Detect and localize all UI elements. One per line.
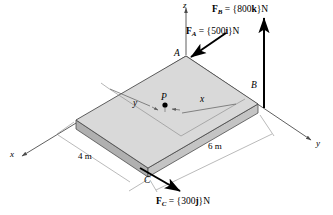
force-a-close: }N [228,26,239,36]
y-axis-label: y [316,139,320,148]
force-c-label: FC = {300j}N [156,197,210,208]
force-c-equals: = { [166,196,181,206]
point-b-label: B [251,81,257,91]
guide-tick-left [101,83,108,88]
force-a-equals: = { [196,26,211,36]
force-b-label: FB = {800k}N [212,5,268,16]
point-p-label: P [161,93,167,103]
force-b-magnitude: 800 [237,4,251,14]
point-a-label: A [174,49,180,59]
force-a-label: FA = {500i}N [186,27,239,38]
point-c-label: C [144,176,150,186]
ext-line-6m-end [260,115,274,136]
ext-line-4m-start [57,122,74,134]
statics-figure: x y z A B C P 4 m 6 m x y FA = {500i}N F… [0,0,333,215]
plate-top-face [76,56,258,168]
x-axis-label: x [10,150,14,159]
z-axis-label: z [183,1,187,10]
force-b-close: }N [257,4,268,14]
ext-line-6m-start [150,180,157,192]
figure-graphics [0,0,333,215]
plate-width-label: 4 m [78,152,92,161]
force-c-close: }N [199,196,210,206]
force-c-magnitude: 300 [181,196,195,206]
force-b-equals: = { [222,4,237,14]
point-p-marker [162,102,167,107]
plate-body [76,56,258,177]
plate-length-label: 6 m [208,142,222,151]
distance-x-label: x [200,95,204,105]
distance-y-label: y [133,99,137,109]
force-a-magnitude: 500 [211,26,225,36]
